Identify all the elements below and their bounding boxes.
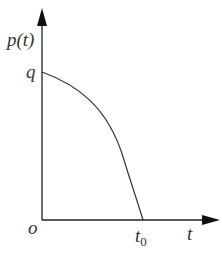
- y-axis-label: p(t): [5, 29, 34, 51]
- t0-subscript: 0: [140, 234, 147, 249]
- origin-label: o: [28, 217, 38, 238]
- diagram-canvas: p(t) q o t0 t: [0, 0, 222, 257]
- x-axis-label: t: [187, 223, 193, 244]
- y-axis-arrow-icon: [37, 8, 47, 26]
- t0-label: t0: [135, 225, 147, 249]
- q-label: q: [26, 61, 36, 82]
- x-axis-arrow-icon: [202, 215, 220, 225]
- p-curve: [42, 72, 143, 220]
